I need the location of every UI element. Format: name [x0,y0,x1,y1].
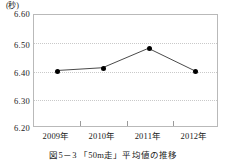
y-tick-label-6-30: 6.30 [0,97,30,106]
figure-50m-run-average-trend: (秒) 6.60 6.50 6.40 6.30 6.20 2009年 2010年… [0,0,227,160]
x-tick-label-2012: 2012年 [181,131,208,141]
y-tick-label-6-50: 6.50 [0,41,30,50]
data-point-2009 [55,69,60,74]
y-tick-label-6-20: 6.20 [0,124,30,133]
series-line-50m-run [34,15,217,126]
figure-caption: 図5－3 「50m走」平均値の推移 [0,150,227,160]
x-tick-label-2009: 2009年 [43,131,70,141]
plot-area [33,14,218,127]
x-tick-label-2010: 2010年 [89,131,116,141]
y-tick-label-6-40: 6.40 [0,69,30,78]
y-tick-label-6-60: 6.60 [0,10,30,19]
x-tick-label-2011: 2011年 [135,131,162,141]
